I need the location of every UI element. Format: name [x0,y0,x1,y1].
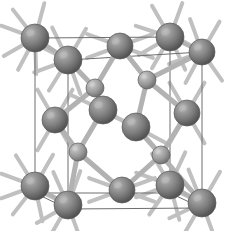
atom-interior-lower-right [152,146,170,164]
atom-corner-front-top-right [156,23,184,51]
atom-corner-back-bottom-left [54,191,82,219]
atom-sphere-corner-front-top-left [21,24,49,52]
atom-sphere-interior-upper-left [86,79,104,97]
atom-sphere-face-top [107,33,133,59]
atom-interior-upper-left [86,79,104,97]
atom-interior-upper-right [138,71,156,89]
crystal-structure-canvas [0,0,239,231]
atom-sphere-face-front [89,96,117,124]
atom-sphere-corner-back-top-right [189,39,215,65]
atom-sphere-corner-front-bottom-right [156,171,184,199]
atom-corner-front-bottom-right [156,171,184,199]
atom-face-front [89,96,117,124]
atom-sphere-interior-lower-left [69,143,87,161]
atom-sphere-corner-front-bottom-left [21,172,49,200]
atom-interior-lower-left [69,143,87,161]
atom-sphere-corner-back-bottom-left [54,191,82,219]
atom-corner-front-top-left [21,24,49,52]
atom-face-right [174,100,200,126]
atom-sphere-interior-lower-right [152,146,170,164]
atom-corner-back-top-right [189,39,215,65]
atom-sphere-corner-front-top-right [156,23,184,51]
atom-corner-back-top-left [54,46,82,74]
atom-face-left [42,107,68,133]
atom-face-bottom [109,177,135,203]
atom-sphere-interior-upper-right [138,71,156,89]
atom-corner-front-bottom-left [21,172,49,200]
atom-sphere-face-bottom [109,177,135,203]
crystal-structure-figure: Diamond cubic crystal structure unit cel… [0,0,239,231]
atom-face-top [107,33,133,59]
atom-sphere-corner-back-bottom-right [188,189,216,217]
atom-sphere-face-right [174,100,200,126]
atom-sphere-face-back [122,113,150,141]
atom-corner-back-bottom-right [188,189,216,217]
atom-face-back [122,113,150,141]
atom-sphere-face-left [42,107,68,133]
atom-sphere-corner-back-top-left [54,46,82,74]
